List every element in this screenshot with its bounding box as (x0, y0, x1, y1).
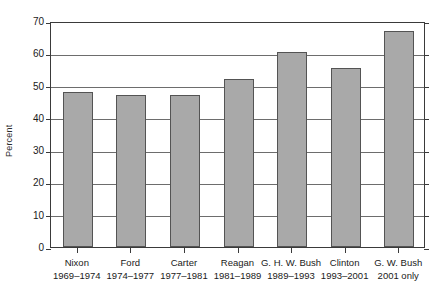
x-tick-mark (77, 248, 78, 253)
x-axis-ticks (50, 248, 425, 254)
x-tick-mark (184, 248, 185, 253)
x-axis-label-years: 2001 only (374, 269, 422, 282)
x-axis-label: G. H. W. Bush1989–1993 (261, 256, 321, 282)
bar (224, 79, 254, 247)
x-axis-label-name: Clinton (321, 256, 369, 269)
y-axis-tick-labels: 010203040506070 (18, 22, 44, 248)
y-tick-mark-right-40 (424, 119, 429, 120)
x-axis-label-name: G. H. W. Bush (261, 256, 321, 269)
x-tick-mark (130, 248, 131, 253)
x-axis-label: Clinton1993–2001 (321, 256, 369, 282)
y-tick-mark-right-70 (424, 23, 429, 24)
x-axis-label: G. W. Bush2001 only (374, 256, 422, 282)
x-axis-label: Nixon1969–1974 (53, 256, 101, 282)
x-axis-label-years: 1969–1974 (53, 269, 101, 282)
x-axis-label-years: 1974–1977 (107, 269, 155, 282)
x-axis-label-years: 1989–1993 (261, 269, 321, 282)
x-axis-label-years: 1993–2001 (321, 269, 369, 282)
x-tick-mark (345, 248, 346, 253)
x-axis-label: Carter1977–1981 (160, 256, 208, 282)
y-tick-label-30: 30 (33, 146, 44, 156)
x-axis-label-name: Nixon (53, 256, 101, 269)
x-axis-label-name: Reagan (214, 256, 262, 269)
x-axis-label-years: 1981–1989 (214, 269, 262, 282)
y-tick-mark-right-20 (424, 184, 429, 185)
bar (384, 31, 414, 247)
bar (331, 68, 361, 247)
y-axis-title: Percent (2, 96, 16, 186)
x-axis-tick-labels: Nixon1969–1974Ford1974–1977Carter1977–19… (50, 256, 425, 296)
y-tick-mark-right-10 (424, 216, 429, 217)
y-tick-mark-right-30 (424, 152, 429, 153)
bar (277, 52, 307, 247)
bar (170, 95, 200, 247)
x-axis-label-name: Ford (107, 256, 155, 269)
y-tick-label-70: 70 (33, 17, 44, 27)
y-tick-label-60: 60 (33, 49, 44, 59)
y-tick-mark-right-60 (424, 55, 429, 56)
x-axis-label-years: 1977–1981 (160, 269, 208, 282)
x-tick-mark (398, 248, 399, 253)
y-tick-label-20: 20 (33, 178, 44, 188)
y-tick-label-40: 40 (33, 114, 44, 124)
x-axis-label: Ford1974–1977 (107, 256, 155, 282)
x-tick-mark (291, 248, 292, 253)
x-axis-label: Reagan1981–1989 (214, 256, 262, 282)
bar (63, 92, 93, 247)
x-tick-mark (238, 248, 239, 253)
x-axis-label-name: G. W. Bush (374, 256, 422, 269)
y-tick-mark-right-50 (424, 87, 429, 88)
y-tick-label-0: 0 (38, 243, 44, 253)
bar (116, 95, 146, 247)
x-axis-label-name: Carter (160, 256, 208, 269)
bar-chart: Percent 010203040506070 Nixon1969–1974Fo… (0, 0, 444, 304)
plot-area (50, 22, 425, 248)
y-tick-label-10: 10 (33, 211, 44, 221)
y-tick-label-50: 50 (33, 82, 44, 92)
bars-layer (51, 23, 424, 247)
